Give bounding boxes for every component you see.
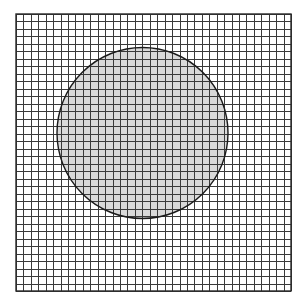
grid-circle-figure <box>0 0 307 308</box>
figure-canvas <box>0 0 307 308</box>
